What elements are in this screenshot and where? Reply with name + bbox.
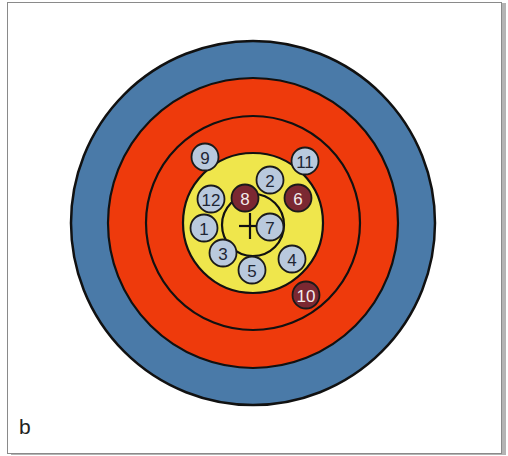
marker-label: 2 [265, 172, 274, 191]
marker-label: 5 [247, 262, 256, 281]
archery-target: 123456789101112 [0, 0, 508, 456]
panel-label: b [19, 416, 31, 437]
marker-label: 6 [293, 190, 302, 209]
shot-marker-12: 12 [198, 186, 225, 213]
shot-marker-10: 10 [293, 282, 320, 309]
shot-marker-11: 11 [292, 148, 319, 175]
marker-label: 3 [218, 245, 227, 264]
marker-label: 11 [296, 153, 314, 172]
shot-marker-6: 6 [285, 185, 312, 212]
shot-marker-4: 4 [279, 246, 306, 273]
marker-label: 9 [200, 149, 209, 168]
shot-marker-2: 2 [257, 167, 284, 194]
marker-label: 7 [265, 219, 274, 238]
shot-marker-8: 8 [232, 185, 259, 212]
marker-label: 12 [202, 191, 221, 210]
marker-label: 4 [287, 251, 296, 270]
marker-label: 10 [297, 287, 316, 306]
shot-marker-7: 7 [257, 214, 284, 241]
target-rings [71, 41, 435, 405]
marker-label: 8 [240, 190, 249, 209]
shot-marker-3: 3 [210, 240, 237, 267]
marker-label: 1 [199, 220, 208, 239]
shot-marker-1: 1 [191, 215, 218, 242]
shot-marker-5: 5 [239, 257, 266, 284]
shot-marker-9: 9 [192, 144, 219, 171]
